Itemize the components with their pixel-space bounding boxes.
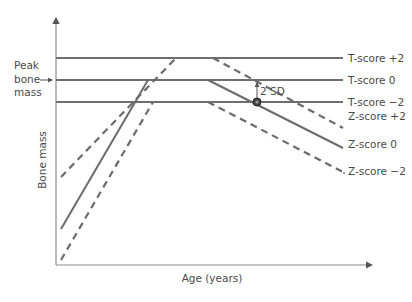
label-t-score-minus2: T-score −2 [347, 96, 404, 108]
intersection-marker-inner [255, 100, 258, 103]
label-z-score-plus2: Z-score +2 [348, 110, 406, 122]
x-axis-label: Age (years) [182, 272, 243, 284]
sd-annotation: 2 SD [260, 85, 285, 97]
bone-mass-diagram: 2 SD Peak bone mass T-score +2 T-score 0… [0, 0, 412, 302]
peak-label-line1: Peak [14, 59, 40, 71]
z-score-plus2-curve [61, 58, 176, 177]
label-z-score-0: Z-score 0 [348, 138, 397, 150]
y-axis-label: Bone mass [36, 131, 48, 189]
z-minus2-end-dot [343, 172, 345, 174]
label-t-score-0: T-score 0 [347, 74, 395, 86]
z-score-minus2-curve [61, 102, 153, 260]
label-t-score-plus2: T-score +2 [347, 52, 404, 64]
label-z-score-minus2: Z-score −2 [348, 165, 406, 177]
peak-label-line3: mass [14, 86, 42, 98]
peak-label-line2: bone [14, 73, 40, 85]
